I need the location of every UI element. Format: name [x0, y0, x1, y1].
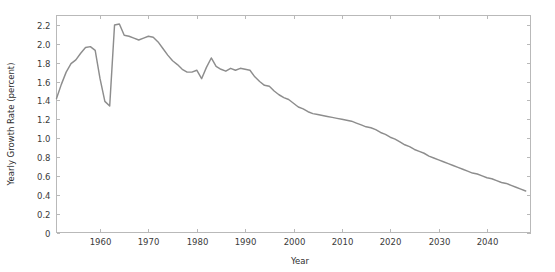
- x-tick-label: 2040: [477, 237, 499, 247]
- y-tick-label: 2.0: [37, 40, 51, 50]
- chart-figure: 196019701980199020002010202020302040 00.…: [0, 0, 555, 272]
- x-tick-label: 1970: [138, 237, 160, 247]
- y-tick-label: 1.8: [37, 59, 51, 69]
- y-tick-label: 1.6: [37, 78, 51, 88]
- x-tick-label: 1960: [90, 237, 112, 247]
- y-axis-ticks: [57, 26, 531, 234]
- y-tick-label: 1.4: [37, 96, 51, 106]
- x-axis-tick-labels: 196019701980199020002010202020302040: [90, 237, 499, 247]
- x-tick-label: 2020: [380, 237, 402, 247]
- x-tick-label: 2030: [429, 237, 451, 247]
- y-tick-label: 1.0: [37, 134, 51, 144]
- x-axis-title: Year: [290, 256, 310, 266]
- growth-rate-line: [57, 24, 526, 191]
- y-tick-label: 0.8: [37, 153, 51, 163]
- x-axis-ticks: [101, 16, 488, 233]
- x-tick-label: 1980: [187, 237, 209, 247]
- y-tick-label: 0.6: [37, 172, 51, 182]
- x-tick-label: 2010: [332, 237, 354, 247]
- x-tick-label: 1990: [235, 237, 257, 247]
- y-tick-label: 0.2: [37, 210, 51, 220]
- x-tick-label: 2000: [284, 237, 306, 247]
- y-tick-label: 2.2: [37, 21, 51, 31]
- plot-frame: [57, 16, 531, 233]
- y-tick-label: 1.2: [37, 115, 51, 125]
- y-axis-title: Yearly Growth Rate (percent): [6, 63, 16, 187]
- y-tick-label: 0.4: [37, 191, 51, 201]
- y-axis-tick-labels: 00.20.40.60.81.01.21.41.61.82.02.2: [37, 21, 51, 239]
- y-tick-label: 0: [45, 229, 50, 239]
- line-chart-svg: 196019701980199020002010202020302040 00.…: [0, 0, 555, 272]
